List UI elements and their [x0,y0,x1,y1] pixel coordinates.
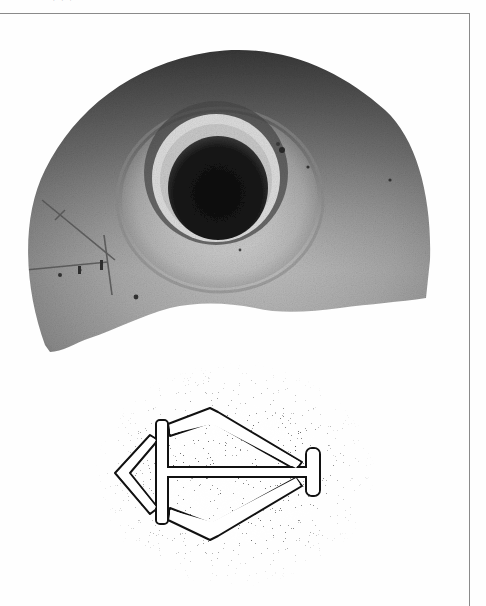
drawing-svg [90,340,390,606]
fragment-photograph [20,40,440,370]
right-rule [469,13,470,606]
central-hole [168,136,268,240]
fragment-body [20,40,440,370]
document-page: · · · [0,0,486,606]
incised-mark-drawing [90,340,390,606]
running-head: · · · [52,0,74,5]
fragment-photo-svg [20,40,440,370]
top-rule [0,13,470,14]
